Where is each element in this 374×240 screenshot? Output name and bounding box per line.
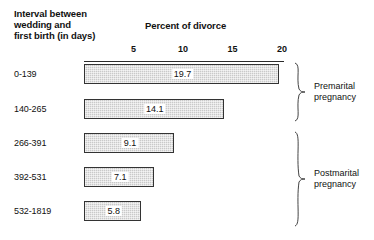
bar-value-label: 9.1 (122, 138, 139, 148)
bar-value-label: 5.8 (105, 206, 122, 216)
bar-value-label: 7.1 (112, 172, 129, 182)
row-label: 532-1819 (14, 206, 51, 216)
row-label: 0-139 (14, 69, 37, 79)
bar-value-label: 14.1 (144, 104, 166, 114)
brace-postmarital (293, 131, 306, 227)
row-label: 266-391 (14, 138, 46, 148)
bar-value-label: 19.7 (172, 69, 194, 79)
group-label-postmarital: Postmaritalpregnancy (314, 168, 359, 190)
bar: 9.1 (84, 133, 174, 153)
group-label-premarital: Premaritalpregnancy (314, 81, 356, 103)
bar: 5.8 (84, 201, 141, 221)
row-label: 140-265 (14, 104, 46, 114)
brace-premarital (293, 62, 306, 122)
group-label-line: pregnancy (314, 179, 359, 190)
bar: 14.1 (84, 99, 224, 119)
row-label: 392-531 (14, 172, 46, 182)
bar: 7.1 (84, 167, 154, 187)
bar: 19.7 (84, 64, 279, 84)
group-label-line: Premarital (314, 81, 356, 92)
bar-rows: 0-13919.7140-26514.1266-3919.1392-5317.1… (0, 0, 374, 240)
divorce-percent-bar-chart: Interval between wedding and first birth… (0, 0, 374, 240)
group-label-line: Postmarital (314, 168, 359, 179)
group-label-line: pregnancy (314, 92, 356, 103)
